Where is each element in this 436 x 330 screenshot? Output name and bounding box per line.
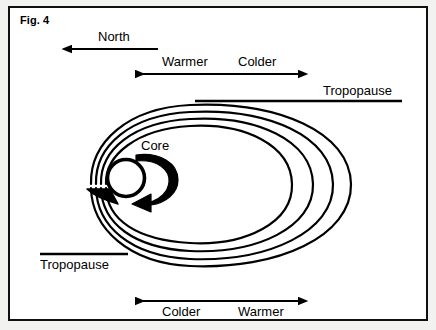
figure-container: Fig. 4 North Warmer Colder	[0, 0, 436, 330]
top-temperature-gradient: Warmer Colder	[135, 54, 298, 74]
bottom-colder-label: Colder	[162, 304, 201, 319]
core-circle	[108, 160, 145, 197]
tropopause-top-label: Tropopause	[323, 83, 392, 98]
tropopause-top: Tropopause	[195, 83, 402, 101]
bottom-temperature-gradient: Colder Warmer	[135, 301, 298, 319]
north-label: North	[98, 29, 130, 44]
core-group: Core	[108, 138, 179, 212]
north-indicator: North	[72, 29, 158, 49]
tropopause-bottom-label: Tropopause	[40, 257, 109, 272]
diagram-canvas: North Warmer Colder Tropopause Tropopaus…	[10, 8, 426, 319]
bottom-warmer-label: Warmer	[238, 304, 284, 319]
top-colder-label: Colder	[238, 54, 277, 69]
top-warmer-label: Warmer	[162, 54, 208, 69]
core-label: Core	[141, 138, 169, 153]
figure-frame: Fig. 4 North Warmer Colder	[8, 6, 428, 321]
tropopause-bottom: Tropopause	[40, 254, 128, 272]
